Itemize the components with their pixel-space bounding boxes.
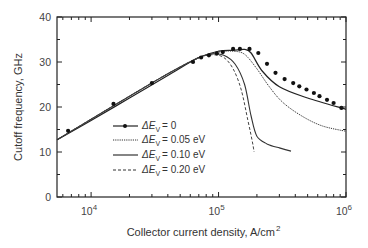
legend-item-dev-010: ΔEV= 0.10 eV <box>113 149 205 162</box>
curve-dev-020 <box>57 55 254 152</box>
y-axis-title: Cutoff frequency, GHz <box>12 53 24 161</box>
x-tick-label: 106 <box>336 203 353 217</box>
data-point-marker <box>297 84 301 88</box>
data-point-marker <box>215 51 219 55</box>
data-point-marker <box>256 51 260 55</box>
curve-dev-005 <box>57 51 346 140</box>
legend-item-dev-005: ΔEV= 0.05 eV <box>113 134 205 147</box>
y-tick-label: 0 <box>45 191 51 203</box>
data-point-marker <box>273 71 277 75</box>
y-axis-tick-labels: 010203040 <box>39 11 51 203</box>
data-point-marker <box>317 94 321 98</box>
data-point-marker <box>150 81 154 85</box>
x-axis-title-superscript: 2 <box>276 224 281 233</box>
data-point-marker <box>291 81 295 85</box>
data-point-marker <box>247 47 251 51</box>
legend-label: ΔEV= 0 <box>141 120 177 133</box>
x-axis-tick-labels: 104105106 <box>81 203 353 217</box>
legend-label: ΔEV= 0.10 eV <box>141 149 205 162</box>
data-point-marker <box>304 87 308 91</box>
data-point-marker <box>191 60 195 64</box>
legend-marker-icon <box>123 124 127 128</box>
x-axis-title: Collector current density, A/cm <box>127 226 275 238</box>
y-tick-label: 10 <box>39 146 51 158</box>
data-point-marker <box>265 62 269 66</box>
x-tick-label: 104 <box>81 203 98 217</box>
data-point-marker <box>238 47 242 51</box>
curve-dev-0 <box>57 49 346 139</box>
y-tick-label: 40 <box>39 11 51 23</box>
data-point-marker <box>66 129 70 133</box>
data-point-marker <box>207 53 211 57</box>
data-point-marker <box>312 91 316 95</box>
data-point-marker <box>199 55 203 59</box>
data-point-marker <box>221 50 225 54</box>
data-point-marker <box>325 98 329 102</box>
data-point-marker <box>339 106 343 110</box>
legend-label: ΔEV= 0.20 eV <box>141 164 205 177</box>
x-tick-label: 105 <box>208 203 225 217</box>
cutoff-frequency-chart: 010203040 104105106 Cutoff frequency, GH… <box>0 0 368 248</box>
legend: ΔEV= 0 ΔEV= 0.05 eV ΔEV= 0.10 eV ΔEV= 0.… <box>113 120 205 177</box>
legend-label: ΔEV= 0.05 eV <box>141 134 205 147</box>
legend-item-dev-020: ΔEV= 0.20 eV <box>113 164 205 177</box>
y-tick-label: 20 <box>39 101 51 113</box>
y-tick-label: 30 <box>39 56 51 68</box>
data-markers <box>66 47 344 133</box>
data-point-marker <box>283 77 287 81</box>
data-point-marker <box>332 101 336 105</box>
data-point-marker <box>231 47 235 51</box>
legend-item-dev-0: ΔEV= 0 <box>113 120 177 133</box>
data-point-marker <box>111 102 115 106</box>
